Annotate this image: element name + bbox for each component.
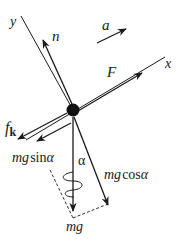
friction-arrow — [18, 113, 67, 139]
y-axis-label: y — [8, 14, 17, 29]
applied-force-label: F — [106, 64, 117, 80]
angle-label: α — [78, 153, 86, 168]
y-axis — [21, 16, 73, 110]
acceleration-label: a — [102, 17, 110, 33]
body-point — [67, 104, 80, 117]
dashed-guide-bottom — [73, 204, 108, 218]
x-axis-label: x — [164, 56, 172, 71]
weight-parallel-label: mgsinα — [12, 150, 54, 165]
normal-force-arrow — [43, 40, 72, 104]
weight-label: mg — [66, 219, 83, 234]
weight-perpendicular-label: mgcosα — [104, 167, 149, 182]
free-body-diagram: y x n a F fk mgsinα mg α mgcosα — [0, 0, 176, 239]
dashed-guide-left — [50, 170, 73, 218]
normal-force-label: n — [52, 28, 60, 44]
friction-label: fk — [5, 119, 16, 139]
x-axis — [26, 57, 165, 140]
